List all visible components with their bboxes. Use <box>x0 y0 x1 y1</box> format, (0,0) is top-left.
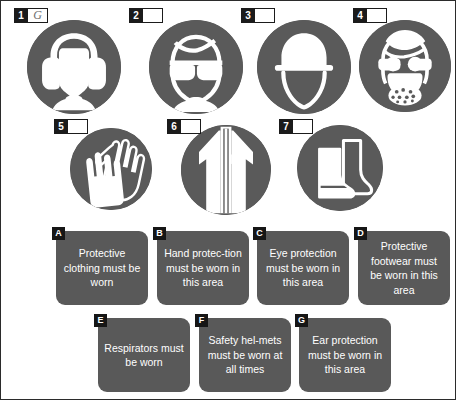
card-letter-d: D <box>354 227 367 240</box>
answer-input-7[interactable] <box>293 119 313 134</box>
answer-box-2[interactable]: 2 <box>129 8 163 23</box>
answer-box-4[interactable]: 4 <box>353 8 387 23</box>
description-card-f[interactable]: Safety hel-mets must be worn at all time… <box>199 318 291 392</box>
sign-number-3: 3 <box>241 8 255 23</box>
answer-box-6[interactable]: 6 <box>167 119 201 134</box>
answer-box-1[interactable]: 1 G <box>14 8 48 23</box>
answer-input-5[interactable] <box>68 119 88 134</box>
protective-gloves-icon <box>70 128 152 210</box>
eye-protection-goggles-icon <box>149 20 243 114</box>
answer-box-3[interactable]: 3 <box>241 8 275 23</box>
sign-number-7: 7 <box>279 119 293 134</box>
answer-input-3[interactable] <box>255 8 275 23</box>
worksheet-page: 1 G 2 <box>0 0 456 400</box>
answer-box-7[interactable]: 7 <box>279 119 313 134</box>
answer-input-1[interactable]: G <box>28 8 48 23</box>
sign-number-6: 6 <box>167 119 181 134</box>
card-text-f: Safety hel-mets must be worn at all time… <box>205 333 285 377</box>
protective-footwear-boots-icon <box>297 125 383 211</box>
safety-helmet-icon <box>257 20 351 114</box>
card-text-g: Ear protection must be worn in this area <box>305 333 385 377</box>
ear-protection-icon <box>27 20 121 114</box>
card-text-e: Respirators must be worn <box>104 341 184 370</box>
respirator-mask-icon <box>359 20 451 112</box>
answer-value-1: G <box>28 8 47 23</box>
description-card-c[interactable]: Eye protection must be worn in this area <box>257 231 349 305</box>
card-text-c: Eye protection must be worn in this area <box>263 246 343 290</box>
card-letter-f: F <box>195 314 208 327</box>
card-letter-a: A <box>52 227 65 240</box>
answer-input-2[interactable] <box>143 8 163 23</box>
card-letter-b: B <box>153 227 166 240</box>
description-card-g[interactable]: Ear protection must be worn in this area <box>299 318 391 392</box>
card-text-b: Hand protec-tion must be worn in this ar… <box>163 246 243 290</box>
sign-number-2: 2 <box>129 8 143 23</box>
description-card-b[interactable]: Hand protec-tion must be worn in this ar… <box>157 231 249 305</box>
card-text-d: Protective footwear must be worn in this… <box>364 239 444 297</box>
description-card-d[interactable]: Protective footwear must be worn in this… <box>358 231 450 305</box>
card-letter-c: C <box>253 227 266 240</box>
sign-number-5: 5 <box>54 119 68 134</box>
description-card-e[interactable]: Respirators must be worn <box>98 318 190 392</box>
sign-number-4: 4 <box>353 8 367 23</box>
card-text-a: Protective clothing must be worn <box>62 246 142 290</box>
sign-number-1: 1 <box>14 8 28 23</box>
answer-input-4[interactable] <box>367 8 387 23</box>
card-letter-e: E <box>94 314 107 327</box>
card-letter-g: G <box>295 314 308 327</box>
description-card-a[interactable]: Protective clothing must be worn <box>56 231 148 305</box>
protective-clothing-overalls-icon <box>181 125 271 215</box>
answer-input-6[interactable] <box>181 119 201 134</box>
answer-box-5[interactable]: 5 <box>54 119 88 134</box>
